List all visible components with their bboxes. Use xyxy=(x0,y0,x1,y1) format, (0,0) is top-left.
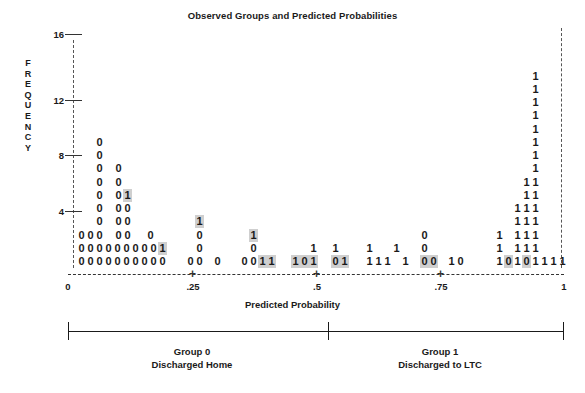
plot-symbol-group1: 1 xyxy=(331,242,340,255)
plot-symbol-group0: 0 xyxy=(104,242,113,255)
plot-symbol-group0: 0 xyxy=(104,255,113,268)
plot-symbol-group1: 1 xyxy=(513,202,522,215)
plot-symbol-group1: 1 xyxy=(309,242,318,255)
plot-symbol-group1: 1 xyxy=(531,202,540,215)
plot-symbol-group1: 1 xyxy=(249,229,258,242)
plot-symbol-group1: 1 xyxy=(495,229,504,242)
plot-symbol-group1: 1 xyxy=(531,176,540,189)
plot-symbol-group0: 0 xyxy=(149,255,158,268)
plot-row: 1 xyxy=(0,70,585,83)
plot-symbol-group0: 0 xyxy=(122,255,131,268)
plot-symbol-group0: 0 xyxy=(114,176,123,189)
plot-symbol-group1: 1 xyxy=(401,255,410,268)
plot-symbol-group0: 0 xyxy=(146,229,155,242)
plot-symbol-group0: 0 xyxy=(131,255,140,268)
plot-data-area: 1111101010010011001110001110001111000000… xyxy=(0,0,585,290)
x-tick-label: .5 xyxy=(302,281,332,292)
plot-symbol-group0: 0 xyxy=(95,176,104,189)
plot-symbol-group0: 0 xyxy=(95,149,104,162)
plot-symbol-group0: 0 xyxy=(77,229,86,242)
plot-symbol-group1: 1 xyxy=(531,162,540,175)
plot-row: 1 xyxy=(0,123,585,136)
plot-symbol-group0: 0 xyxy=(95,242,104,255)
group-label-block: Group 1Discharged to LTC xyxy=(370,345,510,371)
plot-row: 1 xyxy=(0,83,585,96)
plot-symbol-group0: 0 xyxy=(113,255,122,268)
plot-symbol-group1: 1 xyxy=(258,255,267,268)
plot-symbol-group0: 0 xyxy=(420,255,429,268)
plot-symbol-group0: 0 xyxy=(86,255,95,268)
plot-symbol-group0: 0 xyxy=(420,242,429,255)
plot-symbol-group1: 1 xyxy=(549,255,558,268)
plot-symbol-group1: 1 xyxy=(531,242,540,255)
plot-symbol-group0: 0 xyxy=(122,242,131,255)
plot-symbol-group0: 0 xyxy=(114,162,123,175)
plot-symbol-group0: 0 xyxy=(249,255,258,268)
plot-symbol-group1: 1 xyxy=(383,255,392,268)
plot-symbol-group0: 0 xyxy=(456,255,465,268)
x-axis-title: Predicted Probability xyxy=(0,299,585,310)
plot-symbol-group1: 1 xyxy=(513,242,522,255)
plot-row: 01 xyxy=(0,149,585,162)
plot-row: 000000000100111101111 xyxy=(0,242,585,255)
plot-symbol-group1: 1 xyxy=(267,255,276,268)
plot-symbol-group0: 0 xyxy=(123,229,132,242)
plot-symbol-group0: 0 xyxy=(249,242,258,255)
plot-symbol-group1: 1 xyxy=(365,242,374,255)
group-description: Discharged Home xyxy=(122,358,262,371)
plot-symbol-group1: 1 xyxy=(531,123,540,136)
plot-symbol-group1: 1 xyxy=(531,136,540,149)
plot-symbol-group0: 0 xyxy=(420,229,429,242)
plot-symbol-group1: 1 xyxy=(522,189,531,202)
plot-row: 000111 xyxy=(0,202,585,215)
plot-symbol-group1: 1 xyxy=(531,70,540,83)
plot-symbol-group0: 0 xyxy=(140,255,149,268)
plot-symbol-group1: 1 xyxy=(522,202,531,215)
plot-symbol-group0: 0 xyxy=(86,242,95,255)
plot-symbol-group0: 0 xyxy=(149,242,158,255)
plot-symbol-group0: 0 xyxy=(95,202,104,215)
plot-symbol-group0: 0 xyxy=(213,255,222,268)
group-name: Group 0 xyxy=(122,345,262,358)
plot-symbol-group1: 1 xyxy=(522,176,531,189)
plot-symbol-group1: 1 xyxy=(522,229,531,242)
group-bracket-tick-end xyxy=(563,322,564,340)
plot-symbol-group0: 0 xyxy=(140,242,149,255)
plot-symbol-group0: 0 xyxy=(522,255,531,268)
plot-symbol-group1: 1 xyxy=(123,189,132,202)
plot-symbol-group0: 0 xyxy=(77,242,86,255)
plot-symbol-group1: 1 xyxy=(495,255,504,268)
plot-symbol-group0: 0 xyxy=(114,215,123,228)
plot-symbol-group0: 0 xyxy=(131,242,140,255)
plot-symbol-group0: 0 xyxy=(123,215,132,228)
plot-symbol-group1: 1 xyxy=(195,215,204,228)
group-bracket-line xyxy=(68,331,564,332)
plot-symbol-group1: 1 xyxy=(365,255,374,268)
plot-symbol-group0: 0 xyxy=(95,229,104,242)
plot-row: 0000000101111 xyxy=(0,229,585,242)
x-tick-label: .75 xyxy=(426,281,456,292)
plot-symbol-group0: 0 xyxy=(114,229,123,242)
plot-symbol-group1: 1 xyxy=(531,189,540,202)
plot-symbol-group0: 0 xyxy=(95,136,104,149)
plot-symbol-group0: 0 xyxy=(300,255,309,268)
plot-symbol-group0: 0 xyxy=(95,215,104,228)
plot-symbol-group0: 0 xyxy=(114,202,123,215)
plot-symbol-group0: 0 xyxy=(95,162,104,175)
plot-symbol-group1: 1 xyxy=(531,109,540,122)
plot-symbol-group0: 0 xyxy=(95,189,104,202)
plot-row: 1 xyxy=(0,109,585,122)
plot-symbol-group0: 0 xyxy=(240,255,249,268)
plot-symbol-group0: 0 xyxy=(86,229,95,242)
plot-row: 0011 xyxy=(0,176,585,189)
plot-symbol-group1: 1 xyxy=(513,215,522,228)
group-label-block: Group 0Discharged Home xyxy=(122,345,262,371)
plot-symbol-group1: 1 xyxy=(531,229,540,242)
group-name: Group 1 xyxy=(370,345,510,358)
plot-symbol-group1: 1 xyxy=(531,149,540,162)
plot-symbol-group0: 0 xyxy=(158,255,167,268)
plot-symbol-group0: 0 xyxy=(195,255,204,268)
group-bracket-tick-start xyxy=(68,322,69,340)
plot-symbol-group0: 0 xyxy=(123,202,132,215)
plot-row: 00111 xyxy=(0,189,585,202)
